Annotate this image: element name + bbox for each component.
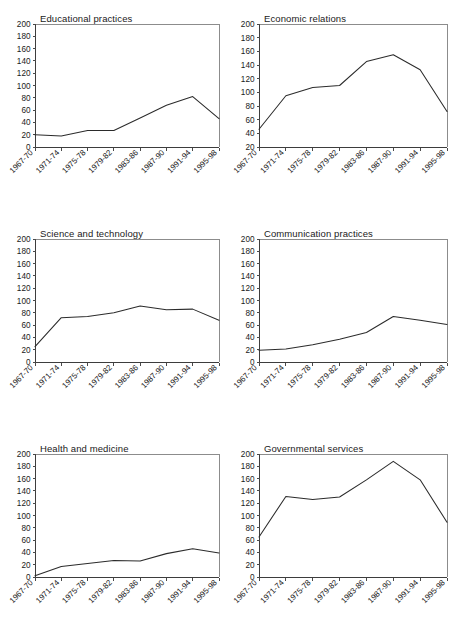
y-tick-label: 200 xyxy=(241,20,255,29)
y-tick-label: 60 xyxy=(245,321,255,330)
x-tick-label: 1971-74 xyxy=(259,578,287,606)
x-tick-label: 1991-94 xyxy=(393,148,421,176)
x-tick-label: 1967-70 xyxy=(8,148,36,176)
y-tick-label: 60 xyxy=(245,116,255,125)
chart-svg-health-and-medicine: 0204060801001201401601802001967-701971-7… xyxy=(0,430,228,638)
data-series-line xyxy=(259,316,447,350)
x-tick-label: 1991-94 xyxy=(393,363,421,391)
chart-svg-educational-practices: 0204060801001201401601802001967-701971-7… xyxy=(0,0,228,215)
y-tick-label: 100 xyxy=(17,512,31,521)
x-axis-ticks: 1967-701971-741975-781979-821983-861987-… xyxy=(232,363,448,391)
y-tick-label: 40 xyxy=(21,118,31,127)
x-tick-label: 1967-70 xyxy=(232,578,260,606)
data-series-line xyxy=(35,97,219,136)
y-tick-label: 20 xyxy=(245,346,255,355)
y-tick-label: 180 xyxy=(17,247,31,256)
y-tick-label: 80 xyxy=(21,524,31,533)
y-tick-label: 200 xyxy=(241,235,255,244)
x-tick-label: 1971-74 xyxy=(259,363,287,391)
y-tick-label: 100 xyxy=(17,82,31,91)
x-tick-label: 1991-94 xyxy=(166,363,194,391)
x-axis-ticks: 1967-701971-741975-781979-821983-861987-… xyxy=(8,363,220,391)
x-tick-label: 1971-74 xyxy=(34,148,62,176)
x-tick-label: 1979-82 xyxy=(87,578,115,606)
y-tick-label: 20 xyxy=(245,561,255,570)
y-tick-label: 40 xyxy=(245,548,255,557)
y-tick-label: 180 xyxy=(241,247,255,256)
x-tick-label: 1995-98 xyxy=(420,578,448,606)
y-tick-label: 120 xyxy=(17,284,31,293)
x-tick-label: 1995-98 xyxy=(192,578,220,606)
x-axis-ticks: 1967-701971-741975-781979-821983-861987-… xyxy=(232,578,448,606)
x-tick-label: 1971-74 xyxy=(34,363,62,391)
chart-panel-health-and-medicine: Health and medicine020406080100120140160… xyxy=(0,430,228,638)
chart-panel-economic-relations: Economic relations2040608010012014016018… xyxy=(228,0,456,215)
chart-title-governmental-services: Governmental services xyxy=(264,443,363,454)
x-tick-label: 1987-90 xyxy=(366,578,394,606)
y-tick-label: 80 xyxy=(21,309,31,318)
x-tick-label: 1987-90 xyxy=(139,578,167,606)
y-tick-label: 60 xyxy=(21,536,31,545)
y-tick-label: 140 xyxy=(17,57,31,66)
y-tick-label: 180 xyxy=(17,32,31,41)
y-tick-label: 80 xyxy=(21,94,31,103)
x-tick-label: 1967-70 xyxy=(8,363,36,391)
x-tick-label: 1971-74 xyxy=(259,148,287,176)
y-tick-label: 120 xyxy=(241,284,255,293)
y-tick-label: 20 xyxy=(21,131,31,140)
y-tick-label: 40 xyxy=(21,333,31,342)
chart-svg-communication-practices: 0204060801001201401601802001967-701971-7… xyxy=(228,215,456,430)
x-tick-label: 1979-82 xyxy=(312,148,340,176)
y-tick-label: 160 xyxy=(17,45,31,54)
chart-title-educational-practices: Educational practices xyxy=(40,13,132,24)
chart-panel-grid: Educational practices0204060801001201401… xyxy=(0,0,456,638)
plot-axes xyxy=(260,239,448,363)
y-tick-label: 60 xyxy=(21,106,31,115)
y-tick-label: 120 xyxy=(241,499,255,508)
y-tick-label: 140 xyxy=(241,487,255,496)
data-series-line xyxy=(259,461,447,537)
x-tick-label: 1975-78 xyxy=(60,148,88,176)
x-tick-label: 1967-70 xyxy=(8,578,36,606)
plot-axes xyxy=(260,24,448,148)
figure-multi-panel-line-charts: Educational practices0204060801001201401… xyxy=(0,0,456,638)
x-tick-label: 1987-90 xyxy=(366,363,394,391)
y-tick-label: 160 xyxy=(17,475,31,484)
y-axis-ticks: 020406080100120140160180200 xyxy=(241,450,260,582)
y-tick-label: 140 xyxy=(17,487,31,496)
y-tick-label: 20 xyxy=(21,346,31,355)
x-tick-label: 1991-94 xyxy=(166,578,194,606)
chart-title-science-and-technology: Science and technology xyxy=(40,228,143,239)
x-tick-label: 1991-94 xyxy=(166,148,194,176)
chart-panel-governmental-services: Governmental services0204060801001201401… xyxy=(228,430,456,638)
x-tick-label: 1979-82 xyxy=(87,363,115,391)
plot-axes xyxy=(260,454,448,578)
data-series-line xyxy=(35,549,219,576)
x-tick-label: 1983-86 xyxy=(113,578,141,606)
chart-panel-science-and-technology: Science and technology020406080100120140… xyxy=(0,215,228,430)
y-axis-ticks: 20406080100120140160180200 xyxy=(241,20,260,152)
chart-svg-science-and-technology: 0204060801001201401601802001967-701971-7… xyxy=(0,215,228,430)
x-tick-label: 1995-98 xyxy=(420,363,448,391)
plot-axes xyxy=(36,454,220,578)
plot-frame xyxy=(259,455,448,578)
chart-svg-economic-relations: 204060801001201401601802001967-701971-74… xyxy=(228,0,456,215)
x-tick-label: 1983-86 xyxy=(339,363,367,391)
chart-panel-educational-practices: Educational practices0204060801001201401… xyxy=(0,0,228,215)
y-axis-ticks: 020406080100120140160180200 xyxy=(241,235,260,367)
y-tick-label: 180 xyxy=(17,462,31,471)
chart-title-health-and-medicine: Health and medicine xyxy=(40,443,129,454)
chart-title-economic-relations: Economic relations xyxy=(264,13,346,24)
y-tick-label: 80 xyxy=(245,102,255,111)
plot-frame xyxy=(259,240,448,363)
x-tick-label: 1995-98 xyxy=(420,148,448,176)
y-tick-label: 100 xyxy=(241,297,255,306)
x-tick-label: 1991-94 xyxy=(393,578,421,606)
y-tick-label: 160 xyxy=(241,475,255,484)
y-tick-label: 200 xyxy=(17,450,31,459)
x-tick-label: 1975-78 xyxy=(60,578,88,606)
y-tick-label: 140 xyxy=(241,272,255,281)
y-tick-label: 120 xyxy=(17,69,31,78)
y-tick-label: 200 xyxy=(17,235,31,244)
y-tick-label: 100 xyxy=(17,297,31,306)
